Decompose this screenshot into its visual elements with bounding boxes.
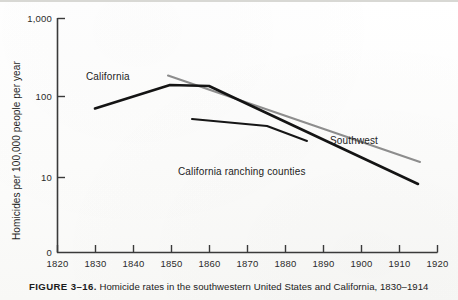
x-tick-label-1860: 1860	[199, 258, 221, 269]
x-tick-label-1920: 1920	[427, 258, 449, 269]
y-tick-label-10: 10	[41, 172, 52, 183]
figure-caption-text: Homicide rates in the southwestern Unite…	[97, 281, 429, 292]
series-line-southwest	[168, 76, 420, 163]
series-label-california: California	[86, 71, 130, 82]
x-tick-label-1900: 1900	[351, 258, 373, 269]
y-axis: 1,000 100 10 0 Homicides per 100,000 peo…	[11, 13, 65, 258]
x-tick-label-1890: 1890	[313, 258, 335, 269]
series-line-california-ranching-counties	[192, 119, 307, 141]
figure-caption-number: FIGURE 3–16.	[29, 281, 97, 292]
x-tick-label-1840: 1840	[123, 258, 145, 269]
chart-plot-area: 1,000 100 10 0 Homicides per 100,000 peo…	[0, 0, 458, 300]
x-tick-label-1850: 1850	[161, 258, 183, 269]
figure-caption: FIGURE 3–16. Homicide rates in the south…	[29, 281, 449, 293]
x-axis: 1820 1830 1840 1850 1860 1870 1880 1890 …	[47, 245, 449, 269]
y-tick-label-1000: 1,000	[27, 13, 52, 24]
series-label-california-ranching-counties: California ranching counties	[178, 166, 306, 177]
x-tick-label-1830: 1830	[85, 258, 107, 269]
x-tick-label-1910: 1910	[389, 258, 411, 269]
figure-container: 1,000 100 10 0 Homicides per 100,000 peo…	[0, 0, 458, 300]
x-tick-label-1870: 1870	[237, 258, 259, 269]
series-label-southwest: Southwest	[330, 135, 378, 146]
x-tick-label-1820: 1820	[47, 258, 69, 269]
x-tick-label-1880: 1880	[275, 258, 297, 269]
y-tick-label-0: 0	[47, 247, 52, 258]
y-tick-label-100: 100	[36, 91, 52, 102]
y-axis-title: Homicides per 100,000 people per year	[11, 61, 22, 240]
